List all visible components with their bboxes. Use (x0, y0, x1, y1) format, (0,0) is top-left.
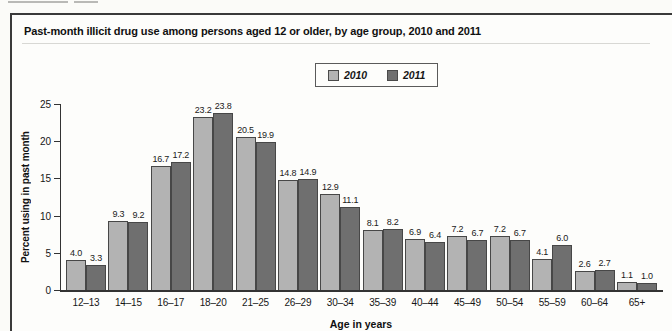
x-axis-title: Age in years (60, 318, 662, 330)
bar-2010 (108, 221, 128, 290)
bar-2010 (490, 236, 510, 290)
x-tick-label: 26–29 (274, 297, 322, 308)
bar-2010 (363, 230, 383, 290)
bar-group: 2.62.760–64 (575, 104, 615, 290)
y-tick-mark (54, 141, 60, 142)
bar-2011 (467, 240, 487, 290)
legend-swatch-2011 (387, 70, 398, 81)
x-tick-label: 12–13 (62, 297, 110, 308)
bar-group: 8.18.235–39 (363, 104, 403, 290)
page-edge-artifact (74, 1, 98, 3)
bar-value-label: 14.9 (293, 167, 323, 177)
bar-2010 (575, 271, 595, 290)
y-tick-label: 10 (27, 210, 51, 221)
bar-2010 (320, 194, 340, 290)
bar-value-label: 3.3 (81, 253, 111, 263)
x-tick-label: 18–20 (189, 297, 237, 308)
bar-group: 16.717.216–17 (151, 104, 191, 290)
y-tick-label: 20 (27, 136, 51, 147)
bar-group: 7.26.750–54 (490, 104, 530, 290)
bar-2010 (405, 239, 425, 290)
bar-2010 (532, 259, 552, 290)
bar-group: 7.26.745–49 (447, 104, 487, 290)
bar-group: 4.03.312–13 (66, 104, 106, 290)
legend-entry-2010: 2010 (328, 69, 367, 81)
bar-value-label: 2.7 (590, 258, 620, 268)
legend-swatch-2010 (328, 70, 339, 81)
chart-legend: 2010 2011 (315, 63, 438, 87)
bar-group: 23.223.818–20 (193, 104, 233, 290)
bar-2011 (298, 179, 318, 290)
bar-value-label: 11.1 (335, 195, 365, 205)
page-edge-artifact (8, 1, 68, 3)
x-tick-label: 65+ (613, 297, 661, 308)
y-tick-label: 15 (27, 173, 51, 184)
bar-value-label: 17.2 (166, 150, 196, 160)
bar-chart-plot-area: 0510152025 4.03.312–139.39.214–1516.717.… (60, 104, 663, 292)
x-tick-label: 21–25 (232, 297, 280, 308)
legend-entry-2011: 2011 (387, 69, 425, 81)
bar-2011 (86, 265, 106, 290)
bar-value-label: 23.8 (208, 101, 238, 111)
bar-value-label: 1.0 (632, 271, 662, 281)
title-divider (22, 43, 650, 44)
x-tick-label: 30–34 (316, 297, 364, 308)
x-tick-label: 60–64 (571, 297, 619, 308)
bar-group: 1.11.065+ (617, 104, 657, 290)
bar-2010 (151, 166, 171, 290)
bar-2011 (637, 283, 657, 290)
x-tick-label: 14–15 (104, 297, 152, 308)
bar-value-label: 4.1 (527, 247, 557, 257)
bar-group: 9.39.214–15 (108, 104, 148, 290)
x-tick-label: 50–54 (486, 297, 534, 308)
x-tick-label: 35–39 (359, 297, 407, 308)
bar-value-label: 9.2 (123, 210, 153, 220)
bar-value-label: 8.2 (378, 217, 408, 227)
y-tick-mark (54, 104, 60, 105)
x-tick-label: 45–49 (443, 297, 491, 308)
bar-2011 (128, 222, 148, 290)
bar-group: 12.911.130–34 (320, 104, 360, 290)
bar-value-label: 6.7 (505, 228, 535, 238)
y-tick-label: 5 (27, 247, 51, 258)
bar-2010 (278, 180, 298, 290)
bar-2011 (213, 113, 233, 290)
bar-value-label: 6.0 (547, 233, 577, 243)
bar-value-label: 19.9 (251, 130, 281, 140)
bar-2010 (66, 260, 86, 290)
x-tick-label: 16–17 (147, 297, 195, 308)
y-tick-mark (54, 253, 60, 254)
bar-2010 (617, 282, 637, 290)
bar-2011 (171, 162, 191, 290)
y-axis-title: Percent using in past month (20, 107, 34, 287)
bar-2010 (236, 137, 256, 290)
figure-box: Past-month illicit drug use among person… (10, 13, 672, 331)
bar-2010 (193, 117, 213, 290)
bar-2010 (447, 236, 467, 290)
x-tick-label: 55–59 (528, 297, 576, 308)
y-tick-mark (54, 178, 60, 179)
bar-group: 4.16.055–59 (532, 104, 572, 290)
bar-2011 (256, 142, 276, 290)
y-tick-mark (54, 216, 60, 217)
bar-group: 20.519.921–25 (236, 104, 276, 290)
y-tick-mark (54, 290, 60, 291)
y-tick-label: 25 (27, 99, 51, 110)
y-tick-label: 0 (27, 285, 51, 296)
figure-title: Past-month illicit drug use among person… (24, 25, 644, 37)
bar-value-label: 12.9 (315, 182, 345, 192)
bar-group: 6.96.440–44 (405, 104, 445, 290)
bar-2011 (383, 229, 403, 290)
bar-groups: 4.03.312–139.39.214–1516.717.216–1723.22… (61, 104, 663, 290)
legend-label-2011: 2011 (403, 69, 425, 81)
bar-group: 14.814.926–29 (278, 104, 318, 290)
bar-2011 (425, 242, 445, 290)
legend-label-2010: 2010 (344, 69, 367, 81)
x-tick-label: 40–44 (401, 297, 449, 308)
